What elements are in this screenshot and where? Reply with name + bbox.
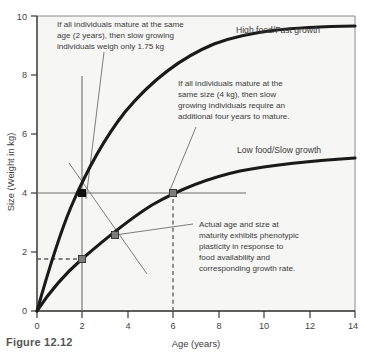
y-tick-label-2: 2 (22, 247, 27, 257)
x-tick-label-14: 14 (348, 321, 358, 331)
annotation-same-size-line-1: If all individuals mature at the (178, 79, 283, 88)
annotation-same-age-line-2: age (2 years), then slow growing (57, 31, 174, 40)
x-tick-label-6: 6 (170, 321, 175, 331)
annotation-plasticity-line-2: maturity exhibits phenotypic (199, 231, 299, 240)
y-tick-label-4: 4 (22, 188, 27, 198)
annotation-same-size-line-3: growing individuals require an (178, 101, 285, 110)
marker-fast-at-2yr (79, 190, 86, 197)
plot-panel-background (37, 16, 355, 311)
x-tick-label-10: 10 (259, 321, 269, 331)
figure-root: 0 2 4 6 8 10 0 2 4 6 8 10 12 14 Age (yea… (0, 0, 366, 353)
figure-caption: Figure 12.12 (6, 336, 206, 352)
curve-label-high-food: High food/Fast growth (236, 25, 320, 35)
y-axis-title: Size (Weight in kg) (5, 133, 16, 212)
marker-actual-maturity (112, 232, 119, 239)
annotation-same-age-line-3: individuals weigh only 1.75 kg (57, 42, 164, 51)
annotation-same-size-line-4: additional four years to mature. (178, 112, 290, 121)
annotation-plasticity-line-3: plasticity in response to (199, 242, 284, 251)
marker-slow-at-6yr (170, 190, 177, 197)
y-tick-label-8: 8 (22, 70, 27, 80)
annotation-plasticity-line-5: corresponding growth rate. (199, 264, 295, 273)
annotation-plasticity-line-4: food availability and (199, 253, 270, 262)
x-tick-label-0: 0 (34, 321, 39, 331)
x-tick-label-4: 4 (125, 321, 130, 331)
y-tick-label-0: 0 (22, 306, 27, 316)
curve-label-low-food: Low food/Slow growth (237, 145, 321, 155)
x-axis-ticks (37, 311, 355, 318)
annotation-same-age-line-1: If all individuals mature at the same (57, 20, 184, 29)
growth-curve-chart: 0 2 4 6 8 10 0 2 4 6 8 10 12 14 Age (yea… (0, 0, 366, 353)
annotation-same-size-line-2: same size (4 kg), then slow (178, 90, 276, 99)
annotation-plasticity-line-1: Actual age and size at (199, 220, 279, 229)
x-tick-label-8: 8 (216, 321, 221, 331)
x-tick-label-12: 12 (305, 321, 315, 331)
marker-slow-at-2yr (79, 256, 86, 263)
y-axis-ticks (31, 16, 37, 311)
y-tick-label-10: 10 (17, 12, 27, 22)
y-tick-label-6: 6 (22, 129, 27, 139)
x-tick-label-2: 2 (79, 321, 84, 331)
